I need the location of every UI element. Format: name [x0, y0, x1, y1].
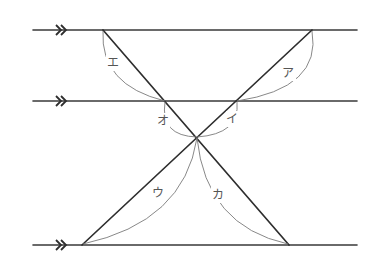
- angle-label-u: ウ: [152, 186, 164, 200]
- angle-label-ka: カ: [212, 188, 224, 202]
- parallel-lines-angle-diagram: エ ア オ イ ウ カ: [0, 0, 384, 278]
- angle-label-o: オ: [157, 114, 169, 128]
- angle-label-i: イ: [226, 112, 238, 126]
- angle-label-e: エ: [107, 56, 119, 70]
- angle-label-a: ア: [282, 66, 294, 80]
